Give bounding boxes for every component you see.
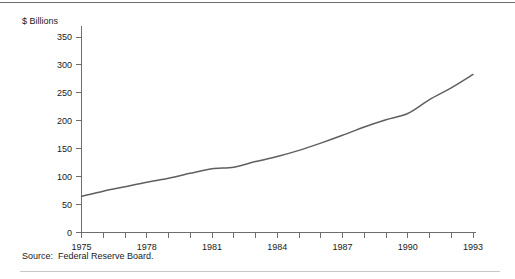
x-tick-label: 1984 bbox=[267, 242, 287, 252]
y-tick-label: 200 bbox=[57, 116, 72, 126]
source-note: Source:Federal Reserve Board. bbox=[22, 251, 154, 261]
series-line--billions bbox=[82, 74, 474, 196]
x-tick-label: 1981 bbox=[202, 242, 222, 252]
y-tick-label: 350 bbox=[57, 32, 72, 42]
line-chart-plot: 050100150200250300350 197519781981198419… bbox=[0, 0, 515, 279]
x-tick-label: 1987 bbox=[332, 242, 352, 252]
x-axis-ticks: 1975197819811984198719901993 bbox=[71, 233, 483, 253]
x-tick-label: 1990 bbox=[398, 242, 418, 252]
x-tick-label: 1993 bbox=[463, 242, 483, 252]
y-axis-ticks: 050100150200250300350 bbox=[57, 32, 82, 238]
source-value: Federal Reserve Board. bbox=[58, 251, 154, 261]
data-series-group bbox=[82, 74, 474, 196]
y-tick-label: 250 bbox=[57, 88, 72, 98]
y-tick-label: 50 bbox=[62, 200, 72, 210]
axes-group bbox=[82, 26, 477, 233]
y-tick-label: 0 bbox=[67, 228, 72, 238]
y-tick-label: 300 bbox=[57, 60, 72, 70]
chart-figure: $ Billions 050100150200250300350 1975197… bbox=[0, 0, 515, 279]
bottom-divider-rule bbox=[20, 271, 500, 272]
source-label: Source: bbox=[22, 251, 53, 261]
y-tick-label: 150 bbox=[57, 144, 72, 154]
y-tick-label: 100 bbox=[57, 172, 72, 182]
